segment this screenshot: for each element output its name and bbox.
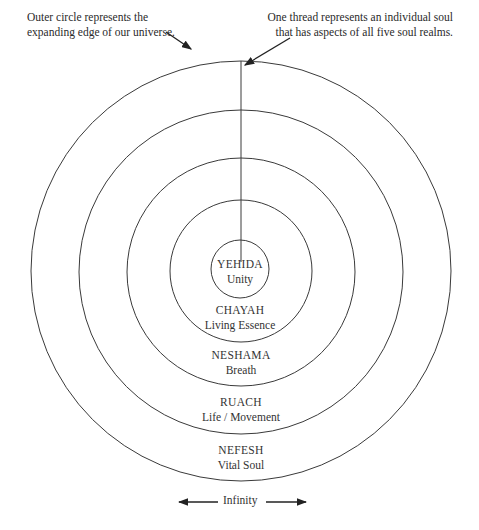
realm-name: NEFESH (171, 443, 311, 458)
outer-circle-annotation: Outer circle represents the expanding ed… (27, 10, 175, 40)
realm-name: NESHAMA (171, 348, 311, 363)
realm-name: CHAYAH (170, 303, 310, 318)
thread-pointer-arrow (245, 38, 290, 65)
realm-label-neshama: NESHAMA Breath (171, 348, 311, 378)
realm-label-chayah: CHAYAH Living Essence (170, 303, 310, 333)
thread-annotation-line-1: One thread represents an individual soul (267, 10, 453, 25)
realm-meaning: Life / Movement (171, 410, 311, 425)
outer-circle-annotation-line-1: Outer circle represents the (27, 10, 175, 25)
realm-name: YEHIDA (170, 257, 310, 272)
realm-label-nefesh: NEFESH Vital Soul (171, 443, 311, 473)
realm-label-ruach: RUACH Life / Movement (171, 395, 311, 425)
realm-meaning: Vital Soul (171, 458, 311, 473)
realm-meaning: Breath (171, 363, 311, 378)
realm-name: RUACH (171, 395, 311, 410)
realm-meaning: Unity (170, 272, 310, 287)
thread-annotation-line-2: that has aspects of all five soul realms… (267, 25, 453, 40)
realm-meaning: Living Essence (170, 318, 310, 333)
realm-label-yehida: YEHIDA Unity (170, 257, 310, 287)
infinity-label: Infinity (223, 494, 258, 506)
outer-circle-annotation-line-2: expanding edge of our universe. (27, 25, 175, 40)
thread-annotation: One thread represents an individual soul… (267, 10, 453, 40)
